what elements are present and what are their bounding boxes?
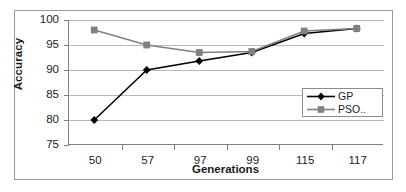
data-point-marker bbox=[301, 28, 308, 35]
x-tick-mark bbox=[174, 145, 175, 150]
x-tick-mark bbox=[122, 145, 123, 150]
legend-item-gp[interactable]: GP bbox=[306, 90, 381, 103]
y-tick-label: 85 bbox=[25, 89, 59, 100]
x-tick-mark bbox=[332, 145, 333, 150]
data-point-marker bbox=[143, 42, 150, 49]
data-point-marker bbox=[248, 48, 255, 55]
x-axis-title: Generations bbox=[68, 163, 383, 175]
data-point-marker bbox=[353, 25, 360, 32]
chart-figure: Accuracy 7580859095100 50579799115117 Ge… bbox=[0, 0, 406, 192]
y-tick-mark bbox=[64, 145, 69, 146]
legend-marker-square-icon bbox=[306, 103, 336, 116]
legend-label-gp: GP bbox=[338, 90, 353, 103]
x-tick-mark bbox=[279, 145, 280, 150]
x-tick-mark bbox=[227, 145, 228, 150]
legend-item-pso[interactable]: PSO.. bbox=[306, 103, 381, 116]
legend-marker-diamond-icon bbox=[306, 90, 336, 103]
legend-label-pso: PSO.. bbox=[338, 103, 366, 116]
y-tick-label: 95 bbox=[25, 39, 59, 50]
y-tick-label: 80 bbox=[25, 114, 59, 125]
y-tick-label: 90 bbox=[25, 64, 59, 75]
series-plot bbox=[68, 20, 383, 145]
data-point-marker bbox=[196, 49, 203, 56]
data-point-marker bbox=[195, 57, 203, 65]
y-tick-label: 75 bbox=[25, 139, 59, 150]
data-point-marker bbox=[91, 27, 98, 34]
chart-legend: GP PSO.. bbox=[302, 88, 383, 117]
y-tick-label: 100 bbox=[25, 14, 59, 25]
